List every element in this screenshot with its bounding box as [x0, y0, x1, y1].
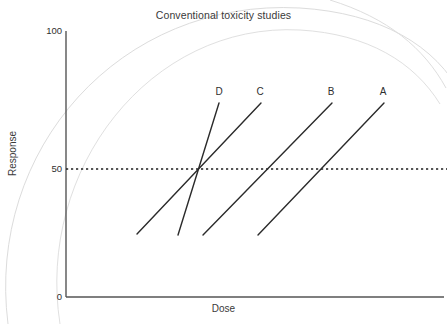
series-label-d: D	[210, 86, 228, 97]
chart-page: Conventional toxicity studies 100 50 0 R…	[0, 0, 447, 324]
series-label-b: B	[322, 86, 340, 97]
series-label-c: C	[251, 86, 269, 97]
series-label-a: A	[374, 86, 392, 97]
plot-area	[0, 0, 447, 324]
